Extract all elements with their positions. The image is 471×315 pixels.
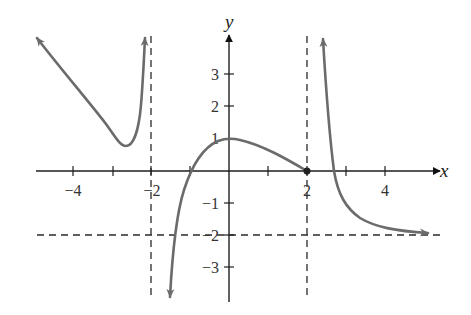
x-axis-label: x: [439, 160, 449, 181]
middle-branch-curve: [170, 139, 307, 297]
x-tick-label-2: 2: [303, 182, 311, 199]
y-axis-label: y: [223, 11, 234, 32]
y-tick-label-neg1: −1: [202, 195, 219, 212]
y-tick-label-neg2: −2: [202, 227, 219, 244]
left-branch-curve: [37, 38, 145, 146]
x-tick-label-neg4: −4: [64, 182, 81, 199]
axes: [36, 35, 440, 302]
x-tick-label-4: 4: [381, 182, 389, 199]
y-tick-label-3: 3: [211, 66, 219, 83]
y-tick-label-neg3: −3: [202, 259, 219, 276]
y-tick-label-2: 2: [211, 98, 219, 115]
function-graph: −4 −2 2 4 3 2 1 −1 −2 −3 x y: [0, 0, 471, 315]
function-curves: [37, 38, 428, 297]
x-tick-label-neg2: −2: [143, 182, 160, 199]
asymptotes: [37, 36, 440, 300]
filled-point-2-0: [304, 168, 311, 175]
right-branch-curve: [323, 39, 428, 233]
